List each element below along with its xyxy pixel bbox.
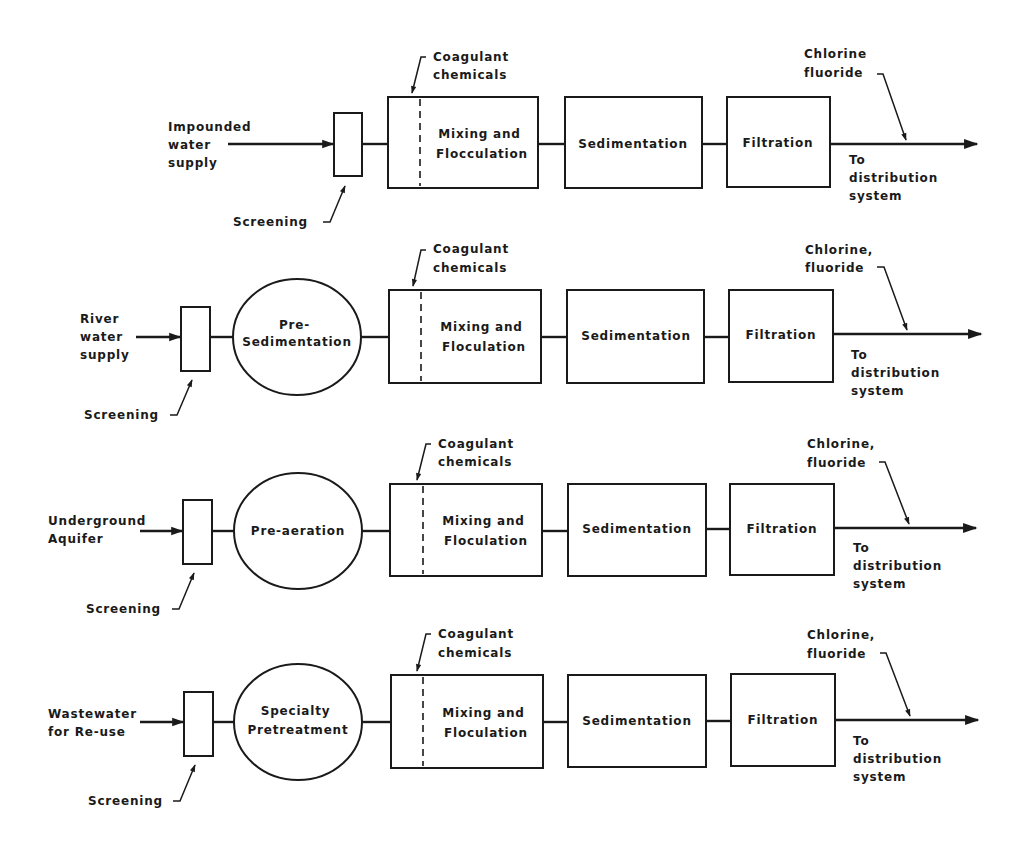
process-row-aquifer: Underground Aquifer Screening Pre-aerati… [48,437,976,616]
screening-leader [170,380,192,415]
chlorine-fluoride-label: Chlorine, fluoride [807,628,880,661]
filtration-label: Filtration [748,713,819,727]
screening-leader [323,186,345,222]
screening-label: Screening [84,408,159,422]
source-label: River water supply [80,312,130,362]
water-treatment-flow-diagram: Impounded water supply Screening Mixing … [0,0,1035,854]
distribution-label: To distribution system [849,153,943,203]
chlorine-leader [877,74,906,140]
process-row-river: River water supply Screening Pre- Sedime… [80,242,981,422]
screening-label: Screening [86,602,161,616]
source-label: Wastewater for Re-use [48,707,142,739]
process-row-impounded: Impounded water supply Screening Mixing … [168,47,977,229]
chlorine-fluoride-label: Chlorine, fluoride [807,437,880,470]
distribution-label: To distribution system [853,734,947,784]
screening-box [184,692,213,756]
screening-box [183,500,212,564]
pretreatment-label: Pre-aeration [251,524,345,538]
chlorine-fluoride-label: Chlorine fluoride [804,47,872,80]
screening-label: Screening [88,794,163,808]
mixing-flocculation-box [388,97,538,188]
sedimentation-label: Sedimentation [582,522,692,536]
specialty-pretreatment-basin [234,664,362,780]
chlorine-leader [877,267,907,330]
coagulant-leader [413,250,426,286]
coagulant-label: Coagulant chemicals [438,627,519,660]
coagulant-label: Coagulant chemicals [433,50,514,82]
sedimentation-label: Sedimentation [578,137,688,151]
distribution-label: To distribution system [853,541,947,591]
distribution-label: To distribution system [851,348,945,398]
screening-leader [172,573,194,609]
screening-leader [173,765,195,801]
mixing-flocculation-box [391,675,543,768]
coagulant-leader [417,634,431,671]
coagulant-leader [417,444,431,480]
coagulant-leader [412,57,426,93]
mixing-flocculation-box [389,290,541,383]
filtration-label: Filtration [746,328,817,342]
screening-box [181,307,210,371]
filtration-label: Filtration [743,136,814,150]
chlorine-leader [879,462,909,524]
filtration-label: Filtration [747,522,818,536]
source-label: Underground Aquifer [48,514,151,546]
coagulant-label: Coagulant chemicals [438,437,519,469]
chlorine-leader [880,653,910,716]
chlorine-fluoride-label: Chlorine, fluoride [805,243,878,275]
sedimentation-label: Sedimentation [582,714,692,728]
sedimentation-label: Sedimentation [581,329,691,343]
screening-box [334,113,362,176]
coagulant-label: Coagulant chemicals [433,242,514,275]
process-row-wastewater: Wastewater for Re-use Screening Specialt… [48,627,978,808]
screening-label: Screening [233,215,308,229]
mixing-flocculation-box [390,484,542,576]
